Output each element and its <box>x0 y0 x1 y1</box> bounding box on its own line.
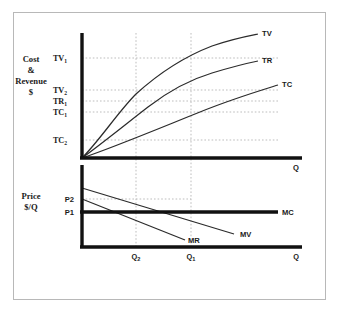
lower-y-tick-labels: P2 P1 <box>65 195 75 217</box>
curve-label-tv: TV <box>262 29 273 38</box>
lower-curves <box>82 188 234 240</box>
cost-label-line1: Cost <box>23 54 40 64</box>
upper-y-tick-labels: TV1 TV2 TR1 TC1 TC2 <box>53 54 67 146</box>
upper-curve-labels: TV TR TC <box>262 29 293 89</box>
x-tick-q1: Q1 <box>187 252 196 262</box>
curve-label-tr: TR <box>262 56 273 65</box>
curve-label-mc: MC <box>282 208 294 217</box>
upper-y-axis-title: Cost & Revenue $ <box>15 54 47 97</box>
cost-label-line3: Revenue <box>15 76 47 86</box>
lower-x-tick-labels: Q2 Q1 Q <box>132 252 300 262</box>
y-tick-p1: P1 <box>65 208 75 217</box>
cost-label-line2: & <box>27 65 34 75</box>
cost-label-line4: $ <box>29 87 34 97</box>
upper-gridlines <box>82 58 278 140</box>
curve-mr <box>82 199 185 240</box>
curve-tv <box>82 34 258 158</box>
x-tick-q2: Q2 <box>132 252 141 262</box>
curve-tc <box>82 85 278 158</box>
curve-label-mv: MV <box>240 230 252 239</box>
price-label-line2: $/Q <box>24 202 38 212</box>
y-tick-tv2: TV2 <box>53 86 67 96</box>
y-tick-tr1: TR1 <box>53 97 67 107</box>
curve-label-tc: TC <box>282 80 293 89</box>
lower-y-axis-title: Price $/Q <box>21 191 40 212</box>
figure-container: TV1 TV2 TR1 TC1 TC2 Cost & Revenue $ TV <box>0 0 342 316</box>
curve-tr <box>82 61 258 158</box>
price-label-line1: Price <box>21 191 40 201</box>
y-tick-tv1: TV1 <box>53 54 67 64</box>
upper-curves <box>82 34 278 158</box>
y-tick-tc2: TC2 <box>53 136 67 146</box>
lower-x-axis-label: Q <box>293 252 299 261</box>
y-tick-tc1: TC1 <box>53 108 67 118</box>
y-tick-p2: P2 <box>65 195 74 204</box>
curve-label-mr: MR <box>188 236 200 245</box>
upper-x-axis-label: Q <box>293 163 299 172</box>
diagram-canvas: TV1 TV2 TR1 TC1 TC2 Cost & Revenue $ TV <box>0 0 342 316</box>
